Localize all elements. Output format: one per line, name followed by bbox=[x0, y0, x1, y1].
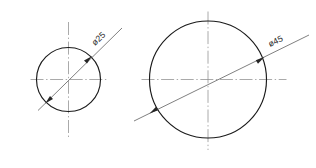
dimension-arrowhead-small-upper-right bbox=[84, 56, 92, 63]
diameter-label-large: ø45 bbox=[266, 33, 284, 49]
technical-drawing-canvas: ø25 ø45 bbox=[0, 0, 316, 168]
view-small-circle: ø25 bbox=[31, 22, 123, 137]
view-large-circle: ø45 bbox=[134, 12, 309, 151]
drawing-svg: ø25 ø45 bbox=[0, 0, 316, 168]
diameter-leader-large bbox=[134, 35, 309, 121]
